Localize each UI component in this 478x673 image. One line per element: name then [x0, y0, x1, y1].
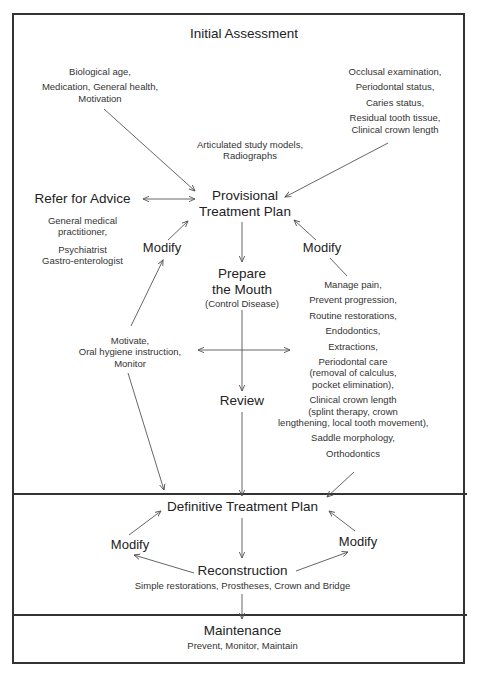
- prepare-line: Prepare: [192, 266, 292, 282]
- right-factors: Occlusal examination, Periodontal status…: [330, 66, 460, 139]
- reconstruction: Reconstruction: [190, 563, 295, 579]
- right-factor: Periodontal status,: [330, 81, 460, 92]
- motivate-item: Monitor: [65, 358, 195, 369]
- center-factors: Articulated study models, Radiographs: [180, 139, 320, 162]
- motivate-item: Oral hygiene instruction,: [65, 346, 195, 357]
- procedure-item: Extractions,: [278, 341, 428, 352]
- definitive-treatment-plan: Definitive Treatment Plan: [160, 499, 325, 515]
- refer-item: Gastro-enterologist: [30, 255, 135, 266]
- procedure-item: Clinical crown length: [278, 394, 428, 405]
- center-factor: Articulated study models,: [180, 139, 320, 150]
- modify-right-initial: Modify: [300, 240, 344, 256]
- provisional-treatment-plan: Provisional Treatment Plan: [195, 188, 295, 220]
- procedures-list: Manage pain, Prevent progression, Routin…: [278, 279, 428, 459]
- maintenance-title: Maintenance: [190, 623, 295, 639]
- left-factor: Motivation: [40, 93, 160, 104]
- left-factor: Biological age,: [40, 66, 160, 77]
- procedure-item: (removal of calculus,: [278, 367, 428, 378]
- right-factor: Caries status,: [330, 97, 460, 108]
- procedure-item: (splint therapy, crown: [278, 406, 428, 417]
- procedure-item: Saddle morphology,: [278, 432, 428, 443]
- modify-left-initial: Modify: [140, 240, 184, 256]
- motivate-list: Motivate, Oral hygiene instruction, Moni…: [65, 335, 195, 369]
- maintenance-items: Prevent, Monitor, Maintain: [170, 640, 315, 651]
- left-factor: Medication, General health,: [40, 81, 160, 92]
- provisional-line: Treatment Plan: [195, 204, 295, 220]
- procedure-item: Manage pain,: [278, 279, 428, 290]
- refer-items: General medical practitioner, Psychiatri…: [30, 215, 135, 267]
- refer-for-advice-title: Refer for Advice: [30, 191, 135, 207]
- procedure-item: Prevent progression,: [278, 294, 428, 305]
- procedure-item: Routine restorations,: [278, 310, 428, 321]
- refer-item: practitioner,: [30, 226, 135, 237]
- reconstruction-items: Simple restorations, Prostheses, Crown a…: [130, 580, 355, 591]
- prepare-the-mouth: Prepare the Mouth (Control Disease): [192, 266, 292, 309]
- procedure-item: Endodontics,: [278, 325, 428, 336]
- modify-right-definitive: Modify: [336, 534, 380, 550]
- prepare-subtitle: (Control Disease): [192, 298, 292, 309]
- procedure-item: Periodontal care: [278, 356, 428, 367]
- procedure-item: Orthodontics: [278, 448, 428, 459]
- refer-item: Psychiatrist: [30, 244, 135, 255]
- procedure-item: pocket elimination),: [278, 379, 428, 390]
- motivate-item: Motivate,: [65, 335, 195, 346]
- left-factors: Biological age, Medication, General heal…: [40, 66, 160, 108]
- review: Review: [212, 393, 272, 409]
- right-factor: Occlusal examination,: [330, 66, 460, 77]
- provisional-line: Provisional: [195, 188, 295, 204]
- prepare-line: the Mouth: [192, 282, 292, 298]
- initial-assessment-title: Initial Assessment: [0, 26, 478, 42]
- center-factor: Radiographs: [180, 150, 320, 161]
- divider-definitive: [12, 493, 467, 495]
- refer-item: General medical: [30, 215, 135, 226]
- modify-left-definitive: Modify: [108, 537, 152, 553]
- right-factor: Clinical crown length: [330, 124, 460, 135]
- right-factor: Residual tooth tissue,: [330, 112, 460, 123]
- divider-maintenance: [12, 614, 467, 616]
- procedure-item: lengthening, local tooth movement),: [278, 417, 428, 428]
